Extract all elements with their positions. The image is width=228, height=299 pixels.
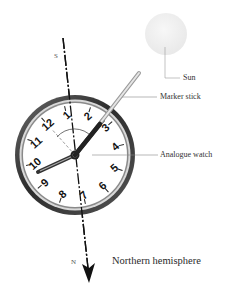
hemisphere-label: Northern hemisphere <box>112 255 201 266</box>
north-arrow-icon <box>82 263 95 283</box>
north-label: N <box>71 258 76 266</box>
analogue-watch-label: Analogue watch <box>160 150 212 159</box>
marker-stick-label: Marker stick <box>160 92 201 101</box>
sun-icon <box>145 13 187 55</box>
south-label: S <box>54 52 58 60</box>
sun-label: Sun <box>183 73 195 82</box>
